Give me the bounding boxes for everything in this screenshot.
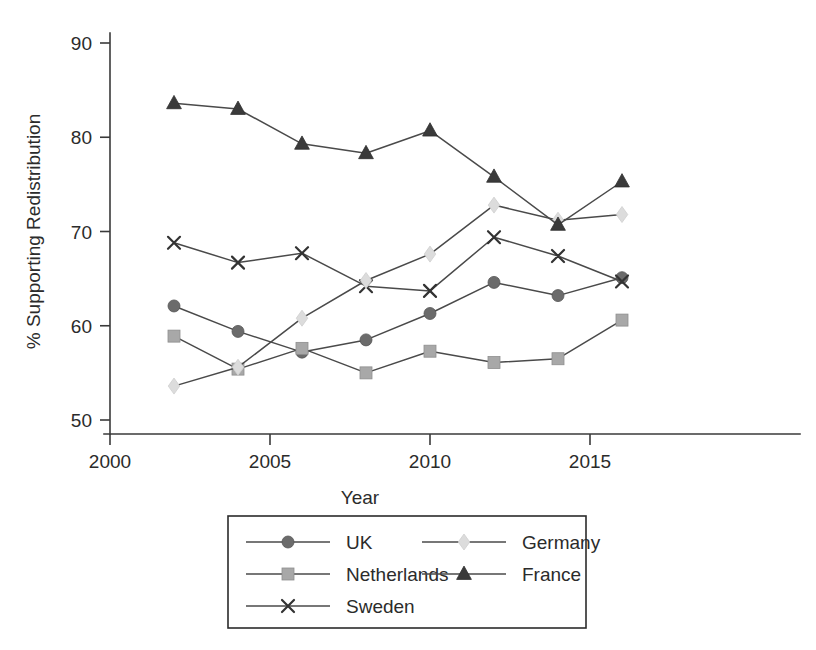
marker-circle-uk-2008 (360, 334, 372, 346)
marker-square-netherlands-2014 (552, 353, 564, 365)
x-tick-label: 2000 (89, 451, 131, 472)
y-tick-label: 90 (71, 33, 92, 54)
x-tick-label: 2010 (409, 451, 451, 472)
marker-square-netherlands-2010 (424, 345, 436, 357)
series-uk (168, 272, 628, 358)
marker-circle-uk-2012 (488, 276, 500, 288)
marker-square-netherlands-2006 (296, 342, 308, 354)
y-tick-label: 50 (71, 410, 92, 431)
data-series-group (167, 95, 630, 394)
chart-legend: UKGermanyNetherlandsFranceSweden (228, 516, 601, 628)
legend-label-sweden: Sweden (346, 596, 415, 617)
line-chart-svg: 50607080902000200520102015 Year% Support… (0, 0, 816, 650)
marker-diamond-germany-2006 (296, 310, 308, 326)
marker-circle-legend-uk (282, 536, 294, 548)
series-france (167, 95, 630, 230)
marker-circle-uk-2010 (424, 307, 436, 319)
marker-diamond-germany-2012 (488, 197, 500, 213)
marker-square-netherlands-2016 (616, 314, 628, 326)
marker-triangle-france-2006 (295, 136, 310, 149)
marker-square-netherlands-2012 (488, 357, 500, 369)
legend-label-uk: UK (346, 532, 373, 553)
marker-diamond-germany-2016 (616, 207, 628, 223)
axes-group: 50607080902000200520102015 (71, 33, 800, 472)
marker-square-legend-netherlands (282, 568, 294, 580)
y-tick-label: 60 (71, 316, 92, 337)
axis-labels-group: Year% Supporting Redistribution (23, 114, 380, 508)
x-axis-title: Year (341, 487, 380, 508)
y-axis-title: % Supporting Redistribution (23, 114, 44, 350)
marker-circle-uk-2004 (232, 325, 244, 337)
marker-triangle-france-2004 (231, 101, 246, 114)
marker-cross-sweden-2012 (488, 231, 500, 243)
x-tick-label: 2005 (249, 451, 291, 472)
marker-triangle-france-2012 (487, 169, 502, 182)
marker-cross-sweden-2014 (552, 250, 564, 262)
marker-square-netherlands-2002 (168, 330, 180, 342)
marker-circle-uk-2002 (168, 300, 180, 312)
y-tick-label: 80 (71, 127, 92, 148)
marker-square-netherlands-2008 (360, 367, 372, 379)
y-tick-label: 70 (71, 222, 92, 243)
marker-triangle-france-2010 (423, 123, 438, 136)
marker-diamond-germany-2010 (424, 246, 436, 262)
series-sweden (168, 231, 628, 297)
marker-diamond-germany-2002 (168, 378, 180, 394)
series-line-france (174, 103, 622, 225)
marker-triangle-france-2016 (615, 174, 630, 187)
legend-label-france: France (522, 564, 581, 585)
marker-triangle-france-2002 (167, 95, 182, 108)
x-tick-label: 2015 (569, 451, 611, 472)
chart-figure: 50607080902000200520102015 Year% Support… (0, 0, 816, 650)
legend-label-germany: Germany (522, 532, 601, 553)
series-line-sweden (174, 237, 622, 291)
marker-circle-uk-2014 (552, 290, 564, 302)
marker-cross-sweden-2002 (168, 237, 180, 249)
